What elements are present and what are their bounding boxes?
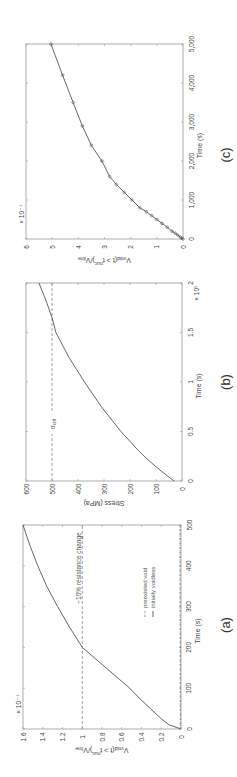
y-tick-label: 4 [75, 245, 82, 249]
x-axis-label: Time (s) [196, 133, 204, 158]
y-tick-label: 0 [180, 245, 187, 249]
series-line [51, 44, 183, 239]
x-multiplier: × 10⁵ [193, 285, 200, 301]
panel-c: 01,0002,0003,0004,0005,0000123456Time (s… [18, 35, 233, 267]
y-axis-label: Vvoid (t > tnuc )/Vline [78, 256, 131, 267]
x-tick-label: 200 [186, 642, 193, 653]
y-tick-label: 1.2 [59, 732, 66, 741]
y-tick-label: 3 [101, 245, 108, 249]
y-tick-label: 0.6 [118, 732, 125, 741]
plot-frame [23, 525, 181, 729]
panel-label: (b) [218, 374, 233, 390]
panel-label: (a) [218, 617, 233, 633]
x-tick-label: 300 [186, 601, 193, 612]
y-tick-label: 600 [23, 483, 30, 494]
plot-frame [26, 44, 183, 239]
y-axis-label: Stress (MPa) [84, 499, 125, 507]
x-tick-label: 1.5 [187, 328, 194, 337]
series-line [180, 525, 181, 729]
y-tick-label: 400 [75, 483, 82, 494]
x-tick-label: 500 [186, 519, 193, 530]
y-tick-label: 100 [153, 483, 160, 494]
x-tick-label: 2,000 [188, 152, 195, 169]
x-tick-label: 0 [186, 727, 193, 731]
y-tick-label: 6 [23, 245, 30, 249]
x-tick-label: 4,000 [188, 74, 195, 91]
y-tick-label: 1.6 [20, 732, 27, 741]
x-axis-label: Time (s) [195, 373, 203, 398]
figure: 010020030040050000.20.40.60.811.21.41.6T… [0, 0, 237, 777]
series-line [23, 525, 181, 729]
x-axis-label: Time (s) [194, 618, 202, 643]
plot-frame [26, 283, 182, 481]
legend-entry: initially voidless [150, 567, 156, 608]
y-tick-label: 500 [49, 483, 56, 494]
x-tick-label: 0 [188, 237, 195, 241]
y-tick-label: 300 [101, 483, 108, 494]
y-tick-label: 0 [178, 735, 185, 739]
x-tick-label: 1,000 [188, 191, 195, 208]
y-tick-label: 0.4 [138, 732, 145, 741]
y-tick-label: 1 [79, 735, 86, 739]
y-tick-label: 5 [49, 245, 56, 249]
y-tick-label: 1 [153, 245, 160, 249]
y-multiplier: × 10⁻⁴ [15, 694, 22, 714]
legend-entry: preexisted void [142, 568, 148, 608]
y-tick-label: 0.8 [99, 732, 106, 741]
y-tick-label: 2 [127, 245, 134, 249]
x-tick-label: 100 [186, 682, 193, 693]
x-tick-label: 400 [186, 560, 193, 571]
series-line [39, 283, 174, 481]
y-multiplier: × 10⁻⁴ [18, 204, 25, 224]
y-axis-label: Vvoid (t > tnuc )/Vline [75, 746, 128, 757]
y-tick-label: 0.2 [158, 732, 165, 741]
panel-a: 010020030040050000.20.40.60.811.21.41.6T… [15, 519, 233, 757]
x-tick-label: 1 [187, 380, 194, 384]
x-tick-label: 5,000 [188, 35, 195, 52]
panel-b: 00.511.520100200300400500600Time (s)Stre… [23, 281, 233, 507]
x-tick-label: 0 [187, 479, 194, 483]
legend: preexisted voidinitially voidless [142, 567, 156, 617]
threshold-annotation: −10% resistance change [75, 532, 83, 604]
x-tick-label: 3,000 [188, 113, 195, 130]
y-tick-label: 1.4 [39, 732, 46, 741]
y-tick-label: 0 [179, 487, 186, 491]
y-tick-label: 200 [127, 483, 134, 494]
x-tick-label: 2 [187, 281, 194, 285]
x-tick-label: 0.5 [187, 427, 194, 436]
panel-label: (c) [218, 147, 233, 162]
